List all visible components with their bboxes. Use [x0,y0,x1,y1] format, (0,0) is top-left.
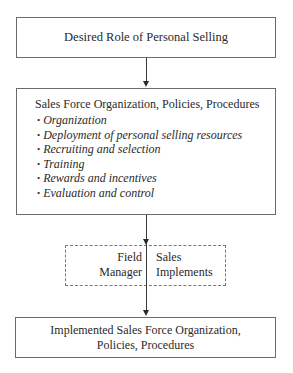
bullet-icon: • [37,144,40,154]
arrowhead-3-icon [143,310,149,316]
implemented-line-2: Policies, Procedures [50,338,240,353]
arrowhead-1-icon [143,81,149,87]
desired-role-label: Desired Role of Personal Selling [64,30,228,45]
org-policies-box: Sales Force Organization, Policies, Proc… [16,88,276,215]
list-item: •Rewards and incentives [37,171,242,186]
sales-implements-label: Sales Implements [156,250,213,280]
list-item: •Training [37,157,242,172]
implemented-line-1: Implemented Sales Force Organization, [50,323,240,338]
list-item: •Organization [37,113,242,128]
list-item: •Recruiting and selection [37,142,242,157]
field-manager-label: Field Manager [99,250,142,280]
bullet-icon: • [37,173,40,183]
bullet-icon: • [37,188,40,198]
org-policies-list: •Organization •Deployment of personal se… [37,113,242,201]
divider-line [146,243,147,289]
arrow-line-3 [146,286,147,311]
list-item: •Deployment of personal selling resource… [37,128,242,143]
implemented-box: Implemented Sales Force Organization, Po… [15,317,276,358]
desired-role-box: Desired Role of Personal Selling [16,17,276,58]
arrow-line-1 [146,58,147,82]
bullet-icon: • [37,115,40,125]
org-policies-title: Sales Force Organization, Policies, Proc… [35,97,259,112]
bullet-icon: • [37,159,40,169]
list-item: •Evaluation and control [37,186,242,201]
bullet-icon: • [37,130,40,140]
